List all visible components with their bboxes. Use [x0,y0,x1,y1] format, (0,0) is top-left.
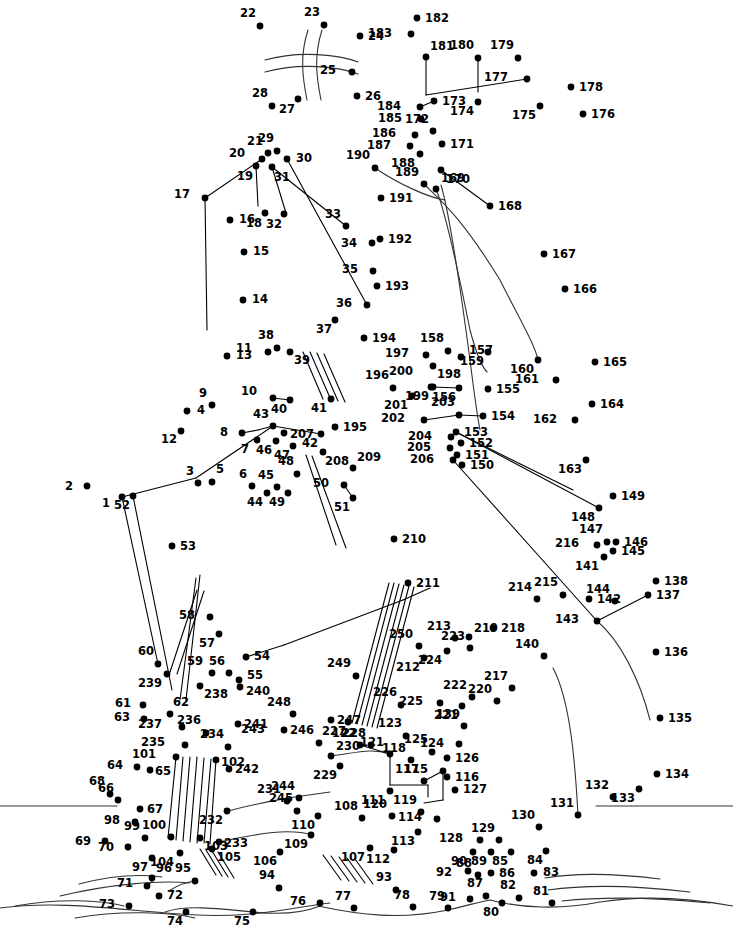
puzzle-dot[interactable] [243,654,250,661]
puzzle-dot[interactable] [467,896,474,903]
puzzle-dot[interactable] [130,493,137,500]
puzzle-dot[interactable] [389,813,396,820]
puzzle-dot[interactable] [270,395,277,402]
puzzle-dot[interactable] [390,385,397,392]
puzzle-dot[interactable] [287,349,294,356]
puzzle-dot[interactable] [657,715,664,722]
puzzle-dot[interactable] [240,297,247,304]
puzzle-dot[interactable] [444,755,451,762]
puzzle-dot[interactable] [377,236,384,243]
puzzle-dot[interactable] [284,156,291,163]
puzzle-dot[interactable] [328,717,335,724]
puzzle-dot[interactable] [405,580,412,587]
puzzle-dot[interactable] [447,445,454,452]
puzzle-dot[interactable] [549,900,556,907]
puzzle-dot[interactable] [359,815,366,822]
puzzle-dot[interactable] [423,352,430,359]
puzzle-dot[interactable] [341,482,348,489]
puzzle-dot[interactable] [364,302,371,309]
puzzle-dot[interactable] [515,55,522,62]
puzzle-dot[interactable] [475,55,482,62]
puzzle-dot[interactable] [337,763,344,770]
puzzle-dot[interactable] [415,829,422,836]
puzzle-dot[interactable] [475,99,482,106]
puzzle-dot[interactable] [168,834,175,841]
puzzle-dot[interactable] [140,702,147,709]
puzzle-dot[interactable] [440,768,447,775]
puzzle-dot[interactable] [226,670,233,677]
puzzle-dot[interactable] [534,596,541,603]
puzzle-dot[interactable] [225,744,232,751]
puzzle-dot[interactable] [343,223,350,230]
puzzle-dot[interactable] [308,832,315,839]
puzzle-dot[interactable] [480,413,487,420]
puzzle-dot[interactable] [485,386,492,393]
puzzle-dot[interactable] [562,286,569,293]
puzzle-dot[interactable] [137,806,144,813]
puzzle-dot[interactable] [84,483,91,490]
puzzle-dot[interactable] [477,837,484,844]
puzzle-dot[interactable] [466,634,473,641]
puzzle-dot[interactable] [177,850,184,857]
puzzle-dot[interactable] [370,268,377,275]
puzzle-dot[interactable] [378,195,385,202]
puzzle-dot[interactable] [318,431,325,438]
puzzle-dot[interactable] [448,434,455,441]
puzzle-dot[interactable] [350,495,357,502]
puzzle-dot[interactable] [536,824,543,831]
puzzle-dot[interactable] [274,484,281,491]
puzzle-dot[interactable] [182,742,189,749]
puzzle-dot[interactable] [192,878,199,885]
puzzle-dot[interactable] [594,618,601,625]
puzzle-dot[interactable] [509,685,516,692]
puzzle-dot[interactable] [456,741,463,748]
puzzle-dot[interactable] [274,345,281,352]
puzzle-dot[interactable] [197,835,204,842]
puzzle-dot[interactable] [262,210,269,217]
puzzle-dot[interactable] [290,711,297,718]
puzzle-dot[interactable] [580,111,587,118]
puzzle-dot[interactable] [167,711,174,718]
puzzle-dot[interactable] [496,837,503,844]
puzzle-dot[interactable] [488,870,495,877]
puzzle-dot[interactable] [487,203,494,210]
puzzle-dot[interactable] [142,835,149,842]
puzzle-dot[interactable] [328,753,335,760]
puzzle-dot[interactable] [417,104,424,111]
puzzle-dot[interactable] [461,723,468,730]
puzzle-dot[interactable] [353,673,360,680]
puzzle-dot[interactable] [349,69,356,76]
puzzle-dot[interactable] [444,774,451,781]
puzzle-dot[interactable] [572,417,579,424]
puzzle-dot[interactable] [445,905,452,912]
puzzle-dot[interactable] [430,128,437,135]
puzzle-dot[interactable] [361,335,368,342]
puzzle-dot[interactable] [178,428,185,435]
puzzle-dot[interactable] [351,905,358,912]
puzzle-dot[interactable] [431,98,438,105]
puzzle-dot[interactable] [328,396,335,403]
puzzle-dot[interactable] [184,408,191,415]
puzzle-dot[interactable] [156,893,163,900]
puzzle-dot[interactable] [281,727,288,734]
puzzle-dot[interactable] [516,895,523,902]
puzzle-dot[interactable] [213,757,220,764]
puzzle-dot[interactable] [439,141,446,148]
puzzle-dot[interactable] [596,505,603,512]
puzzle-dot[interactable] [450,457,457,464]
puzzle-dot[interactable] [494,698,501,705]
puzzle-dot[interactable] [316,740,323,747]
puzzle-dot[interactable] [575,812,582,819]
puzzle-dot[interactable] [332,424,339,431]
puzzle-dot[interactable] [437,700,444,707]
puzzle-dot[interactable] [483,893,490,900]
puzzle-dot[interactable] [541,251,548,258]
puzzle-dot[interactable] [315,813,322,820]
puzzle-dot[interactable] [209,402,216,409]
puzzle-dot[interactable] [207,614,214,621]
puzzle-dot[interactable] [265,150,272,157]
puzzle-dot[interactable] [408,31,415,38]
puzzle-dot[interactable] [537,103,544,110]
puzzle-dot[interactable] [568,84,575,91]
puzzle-dot[interactable] [367,845,374,852]
